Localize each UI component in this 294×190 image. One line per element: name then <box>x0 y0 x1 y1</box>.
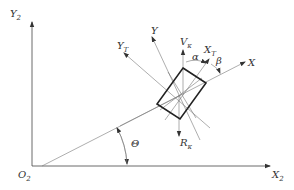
traj-x-label: XT <box>203 44 217 58</box>
velocity-label: Vκ <box>180 36 192 50</box>
theta-arc <box>117 128 127 164</box>
beta-label: β <box>215 55 222 66</box>
theta-arc-reverse <box>117 128 127 164</box>
traj-y-label: YT <box>117 40 130 54</box>
body-x-label: X <box>247 57 256 68</box>
body-y-label: Y <box>151 25 159 36</box>
y2-label: Y2 <box>10 8 22 22</box>
theta-label: Θ <box>131 138 139 149</box>
origin-label: O2 <box>18 169 31 183</box>
reaction-label: Rκ <box>179 137 193 151</box>
diag-line-1 <box>160 78 202 110</box>
alpha-label: α <box>192 51 199 62</box>
x2-label: X2 <box>271 169 284 183</box>
diagram-canvas: Y2 O2 X2 YT Y Vκ XT X α β Θ Rκ <box>0 0 294 190</box>
